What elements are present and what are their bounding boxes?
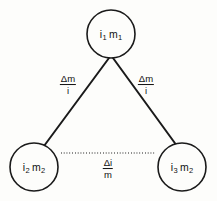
edge-label-right: Δm i xyxy=(138,74,154,96)
edge-label-right-denominator: i xyxy=(138,86,154,96)
edge-label-left-denominator: i xyxy=(60,86,76,96)
node-top-subscript-2: 1 xyxy=(118,33,122,42)
node-bottom-right-subscript-1: 3 xyxy=(173,166,177,175)
edge-top-to-bottom-right xyxy=(113,58,177,146)
node-bottom-left-subscript-2: 2 xyxy=(41,166,45,175)
edge-label-right-numerator: Δm xyxy=(138,74,154,85)
node-bottom-right-label: i3m2 xyxy=(171,161,194,173)
diagram-root: i1m1 i2m2 i3m2 Δm i Δm i Δi m xyxy=(0,0,217,201)
edge-label-bottom-denominator: m xyxy=(103,170,113,180)
edge-label-left: Δm i xyxy=(60,74,76,96)
edge-top-to-bottom-left xyxy=(44,58,109,146)
node-top-symbol-2: m xyxy=(109,28,118,40)
node-bottom-left-subscript-1: 2 xyxy=(25,166,29,175)
node-bottom-left-label: i2m2 xyxy=(23,161,46,173)
node-bottom-right-symbol-2: m xyxy=(180,161,189,173)
edge-label-bottom-numerator: Δi xyxy=(103,158,113,169)
node-top-label: i1m1 xyxy=(100,28,123,40)
node-top-subscript-1: 1 xyxy=(102,33,106,42)
edge-label-bottom: Δi m xyxy=(103,158,113,180)
edge-label-left-numerator: Δm xyxy=(60,74,76,85)
node-bottom-right-subscript-2: 2 xyxy=(189,166,193,175)
node-bottom-left-symbol-2: m xyxy=(32,161,41,173)
